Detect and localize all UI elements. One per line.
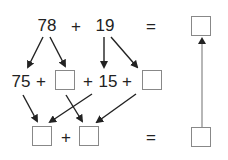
number-15: 15 bbox=[99, 73, 118, 90]
arrow-15-to-bottom-left bbox=[50, 94, 92, 122]
plus-sign: + bbox=[71, 18, 81, 35]
number-19: 19 bbox=[96, 17, 115, 34]
vertical-arrow-head bbox=[198, 37, 206, 44]
arrow-19-to-box bbox=[111, 37, 137, 67]
plus-sign: + bbox=[36, 73, 46, 90]
plus-sign: + bbox=[122, 73, 132, 90]
arrow-box-to-bottom-right bbox=[66, 95, 82, 121]
arrow-box2-to-bottom-right bbox=[97, 94, 136, 122]
plus-sign: + bbox=[83, 73, 93, 90]
number-78: 78 bbox=[38, 17, 57, 34]
number-75: 75 bbox=[12, 73, 31, 90]
arrow-78-to-box bbox=[50, 37, 65, 66]
sum-box-tens[interactable] bbox=[32, 126, 52, 146]
arrow-78-to-75 bbox=[28, 37, 43, 67]
sum-box-ones[interactable] bbox=[79, 126, 99, 146]
equals-sign: = bbox=[146, 18, 156, 35]
answer-box-top[interactable] bbox=[191, 16, 211, 36]
equals-sign: = bbox=[146, 129, 156, 146]
plus-sign: + bbox=[61, 129, 71, 146]
remainder-box-19[interactable] bbox=[142, 70, 162, 90]
arrow-75-to-bottom-left bbox=[23, 95, 37, 121]
answer-box-bottom[interactable] bbox=[191, 127, 211, 147]
remainder-box-78[interactable] bbox=[55, 70, 75, 90]
